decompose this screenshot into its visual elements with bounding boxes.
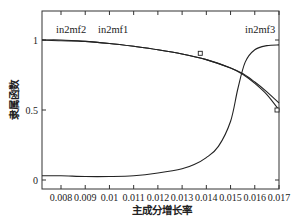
y-tick-label: 0 <box>33 175 38 186</box>
square-marker <box>275 108 279 112</box>
x-tick-label: 0.008 <box>50 192 73 203</box>
x-tick-label: 0.012 <box>147 192 170 203</box>
x-tick-label: 0.009 <box>74 192 97 203</box>
curve-in2mf3 <box>42 45 279 177</box>
x-axis-ticks: 0.0080.0090.010.0110.0120.0130.0140.0150… <box>50 11 291 203</box>
x-tick-label: 0.015 <box>219 192 242 203</box>
label-in2mf2: in2mf2 <box>56 24 86 35</box>
label-in2mf3: in2mf3 <box>245 24 275 35</box>
square-marker <box>198 51 202 55</box>
curve-in2mf1 <box>42 40 279 110</box>
y-tick-label: 0.5 <box>26 105 39 116</box>
membership-function-chart: 0.0080.0090.010.0110.0120.0130.0140.0150… <box>0 0 301 219</box>
y-axis-ticks: 00.51 <box>26 35 280 186</box>
x-tick-label: 0.017 <box>268 192 291 203</box>
x-tick-label: 0.016 <box>244 192 267 203</box>
y-tick-label: 1 <box>33 35 38 46</box>
x-tick-label: 0.011 <box>123 192 145 203</box>
x-axis-title: 主成分增长率 <box>132 204 193 216</box>
y-axis-title: 隶属函数 <box>8 79 20 120</box>
x-tick-label: 0.013 <box>171 192 194 203</box>
x-tick-label: 0.014 <box>195 192 218 203</box>
curve-in2mf2 <box>42 40 279 103</box>
x-tick-label: 0.01 <box>101 192 119 203</box>
label-in2mf1: in2mf1 <box>98 24 128 35</box>
plot-frame <box>42 11 279 189</box>
